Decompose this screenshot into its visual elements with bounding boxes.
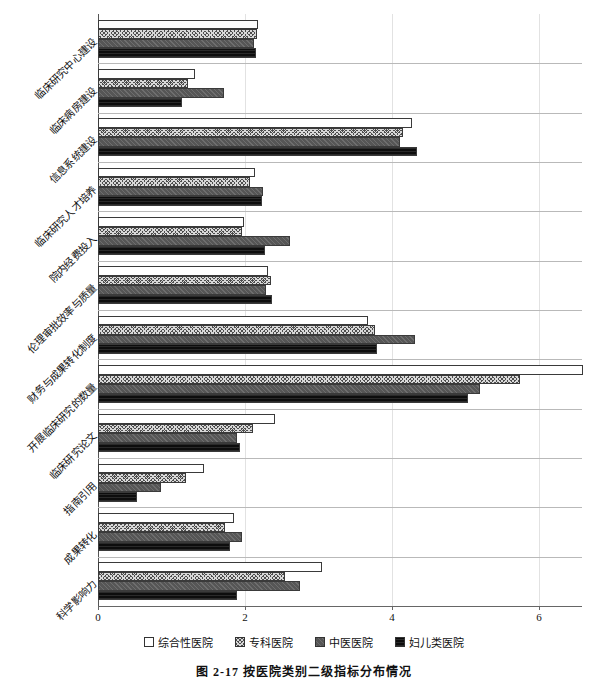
bar [98,217,244,227]
bar [98,187,263,197]
bar [98,591,237,601]
bar [98,266,268,276]
bar [98,137,400,147]
bar [98,48,256,58]
bar [98,344,377,354]
legend-swatch-icon [315,637,325,647]
chart-figure: 临床研究中心建设临床病房建设信息系统建设临床研究人才培养院内经费投入伦理审批效率… [0,0,608,688]
legend-label: 妇儿类医院 [409,634,464,650]
figure-caption: 图 2-17 按医院类别二级指标分布情况 [0,662,608,680]
legend-swatch-icon [395,637,405,647]
bar [98,88,224,98]
bar [98,39,254,49]
x-tick [245,606,246,610]
bar [98,20,258,30]
bar [98,443,240,453]
bar [98,236,290,246]
bar [98,276,271,286]
bar [98,414,275,424]
legend-item: 专科医院 [235,634,293,650]
bar [98,384,480,394]
bar [98,128,403,138]
legend-item: 妇儿类医院 [395,634,464,650]
group-separator [98,113,582,114]
legend-label: 中医医院 [329,634,373,650]
bar [98,168,255,178]
legend-item: 中医医院 [315,634,373,650]
bar [98,394,468,404]
bar [98,464,204,474]
bar [98,69,195,79]
x-tick-label: 0 [83,611,113,623]
legend-label: 综合性医院 [158,634,213,650]
x-tick [539,606,540,610]
x-axis-line [98,606,582,607]
bar [98,98,182,108]
legend: 综合性医院专科医院中医医院妇儿类医院 [0,634,608,650]
x-tick-label: 4 [377,611,407,623]
bar [98,285,266,295]
group-separator [98,63,582,64]
bar [98,523,225,533]
bar [98,542,230,552]
bar [98,424,253,434]
bar [98,29,257,39]
bar [98,513,234,523]
group-separator [98,162,582,163]
bar [98,581,300,591]
bar [98,227,242,237]
group-separator [98,557,582,558]
bar [98,118,412,128]
bar [98,147,417,157]
bar [98,365,583,375]
bar [98,316,368,326]
group-separator [98,211,582,212]
x-tick-label: 2 [230,611,260,623]
group-separator [98,458,582,459]
bar [98,335,415,345]
bar [98,177,250,187]
x-tick [98,606,99,610]
bar [98,572,285,582]
bar [98,325,375,335]
bar [98,473,186,483]
group-separator [98,359,582,360]
bar [98,79,188,89]
legend-swatch-icon [235,637,245,647]
bar [98,246,265,256]
bar [98,196,262,206]
legend-swatch-icon [144,637,154,647]
bar [98,375,520,385]
bar [98,492,137,502]
bar [98,295,272,305]
legend-label: 专科医院 [249,634,293,650]
bar [98,483,161,493]
x-tick-label: 6 [524,611,554,623]
x-tick [392,606,393,610]
group-separator [98,507,582,508]
legend-item: 综合性医院 [144,634,213,650]
group-separator [98,261,582,262]
group-separator [98,409,582,410]
bar [98,532,242,542]
bar [98,433,237,443]
group-separator [98,310,582,311]
bar [98,562,322,572]
